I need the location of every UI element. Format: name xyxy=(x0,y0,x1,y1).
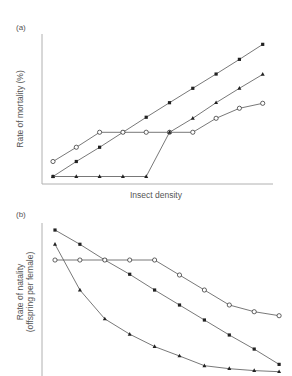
filled-circle-marker xyxy=(253,347,256,350)
open-circle-marker xyxy=(121,130,125,134)
open-circle-marker xyxy=(261,101,265,105)
series-filled-triangle xyxy=(53,242,281,373)
filled-circle-marker xyxy=(278,363,281,366)
open-circle-marker xyxy=(252,310,256,314)
filled-circle-marker xyxy=(78,243,81,246)
panel-a-plot xyxy=(42,34,273,184)
series-filled-triangle xyxy=(51,72,265,178)
open-circle-marker xyxy=(98,130,102,134)
open-circle-marker xyxy=(214,116,218,120)
filled-circle-marker xyxy=(53,228,56,231)
filled-circle-marker xyxy=(191,87,194,90)
filled-circle-marker xyxy=(203,318,206,321)
open-circle-marker xyxy=(277,314,281,318)
open-circle-marker xyxy=(53,258,57,262)
triangle-marker xyxy=(98,174,102,178)
filled-circle-marker xyxy=(98,146,101,149)
open-circle-marker xyxy=(227,303,231,307)
filled-circle-marker xyxy=(228,333,231,336)
open-circle-marker xyxy=(191,130,195,134)
series-line xyxy=(55,244,279,371)
open-circle-marker xyxy=(74,145,78,149)
series-filled-circle xyxy=(53,228,280,366)
filled-circle-marker xyxy=(153,288,156,291)
open-circle-marker xyxy=(103,258,107,262)
triangle-marker xyxy=(261,72,265,76)
open-circle-marker xyxy=(78,258,82,262)
filled-circle-marker xyxy=(145,116,148,119)
series-line xyxy=(55,260,279,316)
filled-circle-marker xyxy=(75,160,78,163)
triangle-marker xyxy=(74,174,78,178)
series-open-circle xyxy=(53,258,281,318)
filled-circle-marker xyxy=(261,43,264,46)
triangle-marker xyxy=(53,242,57,246)
series-line xyxy=(53,103,263,161)
series-filled-circle xyxy=(51,43,264,178)
open-circle-marker xyxy=(51,159,55,163)
open-circle-marker xyxy=(237,106,241,110)
open-circle-marker xyxy=(144,130,148,134)
series-line xyxy=(53,44,263,176)
filled-circle-marker xyxy=(215,72,218,75)
open-circle-marker xyxy=(177,273,181,277)
filled-circle-marker xyxy=(178,303,181,306)
series-line xyxy=(53,74,263,176)
triangle-marker xyxy=(144,174,148,178)
filled-circle-marker xyxy=(168,101,171,104)
chart-canvas xyxy=(0,0,292,376)
panel-b-plot xyxy=(42,223,281,376)
triangle-marker xyxy=(78,288,82,292)
open-circle-marker xyxy=(202,288,206,292)
series-line xyxy=(55,230,279,364)
filled-circle-marker xyxy=(238,58,241,61)
triangle-marker xyxy=(191,116,195,120)
triangle-marker xyxy=(121,174,125,178)
open-circle-marker xyxy=(128,258,132,262)
filled-circle-marker xyxy=(128,273,131,276)
open-circle-marker xyxy=(153,258,157,262)
